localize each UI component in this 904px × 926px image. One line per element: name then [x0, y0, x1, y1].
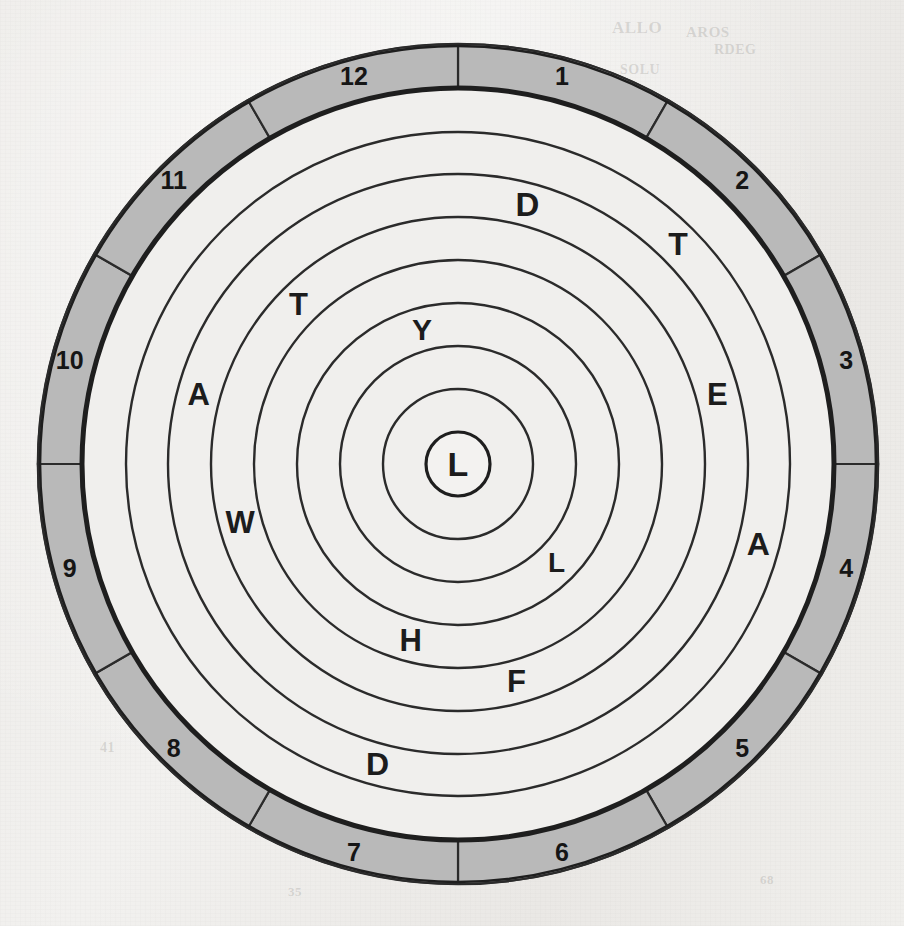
hour-label-9: 9 [63, 554, 77, 582]
hour-label-2: 2 [735, 166, 749, 194]
cell-letter-10-t: T [668, 226, 688, 262]
hour-label-8: 8 [167, 734, 181, 762]
cell-letter-5-d: D [516, 186, 540, 223]
clock-letter-wheel-diagram: LYLTHDFEWATAD 123456789101112 [0, 0, 904, 926]
cell-letter-1-y: Y [412, 313, 432, 346]
hour-label-5: 5 [735, 734, 749, 762]
cell-letter-9-a: A [187, 377, 209, 412]
hour-label-6: 6 [555, 838, 569, 866]
cell-letter-6-f: F [507, 664, 526, 699]
hour-label-11: 11 [161, 166, 188, 194]
hour-label-12: 12 [340, 62, 368, 90]
cell-letter-3-t: T [289, 287, 308, 322]
cell-letter-4-h: H [400, 623, 422, 658]
hour-label-1: 1 [555, 62, 569, 90]
cell-letter-0-l: L [448, 445, 469, 483]
cell-letter-11-a: A [747, 526, 770, 562]
cell-letter-2-l: L [548, 547, 565, 578]
hour-label-10: 10 [56, 346, 84, 374]
hour-label-4: 4 [839, 554, 853, 582]
figure-canvas: ALLOAROSRDEGSOLU77413568 LYLTHDFEWATAD 1… [0, 0, 904, 926]
hour-label-7: 7 [347, 838, 361, 866]
hour-label-3: 3 [839, 346, 853, 374]
cell-letter-8-w: W [226, 505, 256, 540]
cell-letter-7-e: E [707, 377, 728, 412]
cell-letter-12-d: D [366, 746, 389, 782]
